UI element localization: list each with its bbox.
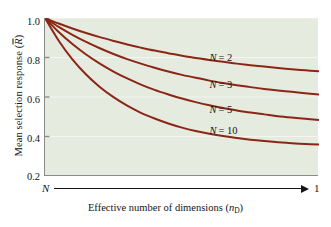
x-axis-label-paren: )	[240, 202, 244, 213]
y-tick-label: 0.8	[14, 56, 40, 66]
plot-area: N = 2N = 3N = 5N = 10	[44, 18, 318, 176]
x-axis-arrow-row: N 1	[42, 183, 322, 195]
figure-container: Mean selection response (R) 1.0 0.8 0.6 …	[0, 0, 331, 227]
curve-n-10	[45, 18, 319, 145]
x-axis-arrowhead-icon	[301, 185, 309, 193]
curve-label: N = 10	[209, 125, 237, 136]
y-tick-label: 1.0	[14, 17, 40, 27]
x-axis-label-text: Effective number of dimensions (	[88, 202, 229, 213]
x-axis-line	[54, 188, 304, 189]
x-axis-label: Effective number of dimensions (nD)	[0, 202, 331, 215]
curve-label-value: = 2	[216, 52, 232, 63]
plot-svg	[45, 18, 319, 176]
y-tick-label: 0.2	[14, 172, 40, 182]
y-tick-label: 0.6	[14, 95, 40, 105]
curve-label-value: = 5	[216, 104, 232, 115]
y-tick-marks-group	[45, 18, 50, 176]
curve-n-2	[45, 18, 319, 71]
curve-label-value: = 10	[216, 125, 237, 136]
y-tick-label: 0.4	[14, 134, 40, 144]
curve-label: N = 2	[209, 52, 232, 63]
curve-label: N = 5	[209, 104, 232, 115]
x-axis-start-label: N	[42, 182, 49, 194]
curve-label: N = 3	[209, 79, 232, 90]
x-axis-end-label: 1	[314, 182, 320, 194]
gridlines-group	[45, 18, 319, 137]
curves-group	[45, 18, 319, 145]
curve-label-value: = 3	[216, 79, 232, 90]
y-axis-tick-labels: 1.0 0.8 0.6 0.4 0.2	[10, 0, 40, 227]
